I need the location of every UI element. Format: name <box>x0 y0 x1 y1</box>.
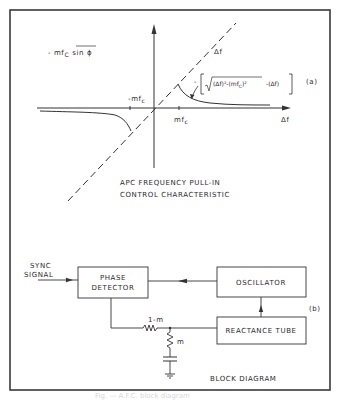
phase-detector-block <box>78 267 148 298</box>
left-pull-in-curve <box>40 111 131 131</box>
figure-a-label: (a) <box>306 78 318 86</box>
reactance-tube-label: REACTANCE TUBE <box>225 327 296 335</box>
figure-a-title-line2: CONTROL CHARACTERISTIC <box>120 191 230 199</box>
series-resistor-icon <box>143 325 170 331</box>
series-resistor-label: 1-m <box>148 316 164 324</box>
sync-signal-label-line2: SIGNAL <box>24 271 53 279</box>
formula-minus: - <box>194 78 197 86</box>
shunt-resistor-icon <box>167 328 173 357</box>
x-axis-arrow-icon <box>282 106 291 111</box>
phase-detector-label-line1: PHASE <box>100 274 126 282</box>
dashed-line-label: Δf <box>214 48 222 56</box>
figure-caption: Fig. — A.F.C. block diagram <box>95 392 190 400</box>
figure-b-title: BLOCK DIAGRAM <box>210 375 276 383</box>
figure-b-label: (b) <box>309 305 321 313</box>
detector-output-wire <box>111 298 143 328</box>
shunt-resistor-label: m <box>177 338 184 346</box>
ground-icon <box>165 374 175 378</box>
figure-a-characteristic: - mfCsin ϕ Δf (a) -mfc mfc Δf - (Δf)²-(m… <box>37 23 318 201</box>
feedback-arrow-icon <box>178 279 187 283</box>
dashed-reference-line <box>68 23 236 201</box>
y-axis-label: - mfCsin ϕ <box>48 49 92 58</box>
x-axis-label: Δf <box>281 116 289 124</box>
formula-right-bracket <box>289 74 292 94</box>
formula-sqrt-body: (Δf)²-(mfC)² <box>213 80 247 89</box>
phase-detector-label-line2: DETECTOR <box>92 284 135 292</box>
oscillator-label: OSCILLATOR <box>236 279 286 287</box>
neg-mfc-label: -mfc <box>128 95 146 104</box>
pull-in-formula: - (Δf)²-(mfC)² -(Δf) <box>194 74 292 94</box>
sync-arrow-icon <box>66 278 73 282</box>
figure-b-block-diagram: SYNC SIGNAL PHASE DETECTOR OSCILLATOR RE… <box>24 262 321 383</box>
diagram-canvas: - mfCsin ϕ Δf (a) -mfc mfc Δf - (Δf)²-(m… <box>0 0 339 405</box>
y-axis-arrow-icon <box>152 24 157 34</box>
sync-signal-label-line1: SYNC <box>30 262 51 270</box>
formula-tail: -(Δf) <box>266 80 279 87</box>
figure-a-title-line1: APC FREQUENCY PULL-IN <box>120 179 220 187</box>
up-arrow-icon <box>259 305 263 312</box>
formula-left-bracket <box>201 74 204 94</box>
pos-mfc-label: mfc <box>174 116 188 125</box>
